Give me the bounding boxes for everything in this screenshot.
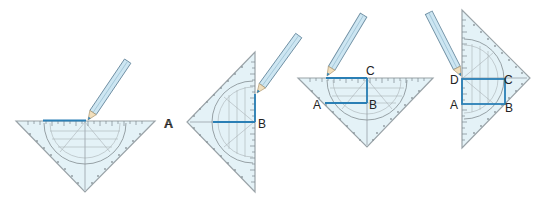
- point-label-A: A: [313, 98, 321, 112]
- panel-step-3: C A B: [298, 13, 433, 147]
- panel-step-4: D C A B: [425, 10, 530, 148]
- pencil-icon: [254, 33, 302, 95]
- pencil-icon: [85, 59, 131, 122]
- point-label-D: D: [450, 73, 459, 87]
- pencil-icon: [324, 13, 367, 78]
- panel-step-2: A B: [165, 33, 302, 192]
- point-label-A: A: [450, 98, 458, 112]
- set-square: [16, 121, 155, 192]
- point-label-B: B: [505, 101, 513, 115]
- set-square: [298, 78, 433, 147]
- point-label-B: B: [258, 117, 266, 131]
- pencil-icon: [425, 11, 464, 78]
- point-label-A: A: [165, 117, 173, 131]
- point-label-C: C: [366, 64, 375, 78]
- construction-diagram: A: [0, 0, 543, 203]
- panel-step-1: A: [16, 59, 172, 192]
- point-label-C: C: [504, 73, 513, 87]
- point-label-B: B: [369, 98, 377, 112]
